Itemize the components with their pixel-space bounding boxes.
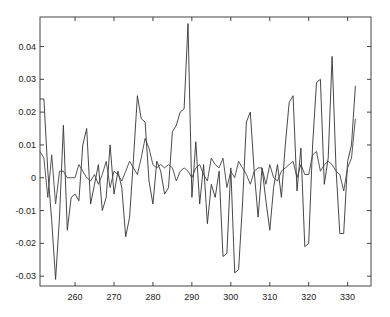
series-line-series-a [40,24,355,280]
x-tick-label: 280 [145,292,160,302]
x-tick-label: 310 [262,292,277,302]
series-layer [40,24,355,280]
series-line-series-b [40,119,355,204]
y-tick-label: -0.01 [15,206,36,216]
y-tick-label: 0.04 [18,42,36,52]
x-tick-label: 300 [223,292,238,302]
line-chart: 260270280290300310320330 -0.03-0.02-0.01… [0,0,390,317]
y-tick-label: 0.01 [18,140,36,150]
x-tick-label: 270 [106,292,121,302]
x-tick-label: 290 [184,292,199,302]
y-axis: -0.03-0.02-0.0100.010.020.030.04 [15,42,371,282]
y-tick-label: 0 [31,173,36,183]
plot-area-frame [40,17,371,286]
x-tick-label: 330 [340,292,355,302]
y-tick-label: -0.03 [15,271,36,281]
y-tick-label: 0.03 [18,74,36,84]
x-tick-label: 260 [68,292,83,302]
y-tick-label: 0.02 [18,107,36,117]
x-tick-label: 320 [301,292,316,302]
y-tick-label: -0.02 [15,238,36,248]
